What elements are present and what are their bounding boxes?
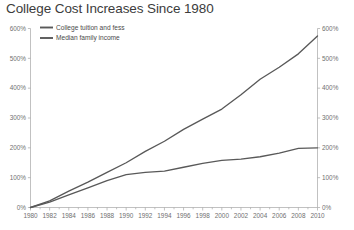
- y-tick-label-right: 600%: [322, 25, 339, 32]
- y-axis-right: 0%100%200%300%400%500%600%: [318, 25, 339, 211]
- legend-label-0: College tuition and fess: [56, 24, 125, 32]
- y-tick-label-left: 100%: [10, 174, 27, 181]
- x-tick-label: 1986: [81, 212, 96, 219]
- y-tick-label-right: 400%: [322, 84, 339, 91]
- y-tick-label-right: 500%: [322, 55, 339, 62]
- x-tick-label: 1998: [196, 212, 211, 219]
- x-tick-label: 1988: [100, 212, 115, 219]
- chart-plot-area: 0%100%200%300%400%500%600% 0%100%200%300…: [0, 0, 354, 230]
- y-tick-label-left: 500%: [10, 55, 27, 62]
- x-tick-label: 2010: [310, 212, 325, 219]
- x-tick-label: 1984: [62, 212, 77, 219]
- x-tick-label: 1990: [119, 212, 134, 219]
- series-line-1: [31, 148, 318, 208]
- chart-container: College Cost Increases Since 1980 0%100%…: [0, 0, 354, 230]
- y-tick-label-right: 0%: [322, 204, 332, 211]
- series-line-0: [31, 36, 318, 208]
- x-tick-label: 2008: [291, 212, 306, 219]
- y-tick-label-left: 400%: [10, 84, 27, 91]
- y-tick-label-right: 100%: [322, 174, 339, 181]
- x-axis: 1980198219841986198819901992199419961998…: [23, 208, 325, 220]
- x-tick-label: 2000: [215, 212, 230, 219]
- x-tick-label: 2006: [272, 212, 287, 219]
- legend-label-1: Median family income: [56, 34, 120, 42]
- x-tick-label: 1994: [157, 212, 172, 219]
- x-tick-label: 1992: [138, 212, 153, 219]
- x-tick-label: 1982: [43, 212, 58, 219]
- y-tick-label-left: 300%: [10, 114, 27, 121]
- x-tick-label: 1980: [23, 212, 38, 219]
- y-tick-label-left: 200%: [10, 144, 27, 151]
- y-tick-label-left: 600%: [10, 25, 27, 32]
- y-tick-label-left: 0%: [17, 204, 27, 211]
- x-tick-label: 2004: [253, 212, 268, 219]
- chart-legend: College tuition and fessMedian family in…: [40, 24, 125, 43]
- y-axis-left: 0%100%200%300%400%500%600%: [10, 25, 31, 211]
- y-tick-label-right: 300%: [322, 114, 339, 121]
- data-series-group: [31, 36, 318, 208]
- x-tick-label: 1996: [176, 212, 191, 219]
- x-tick-label: 2002: [234, 212, 249, 219]
- y-tick-label-right: 200%: [322, 144, 339, 151]
